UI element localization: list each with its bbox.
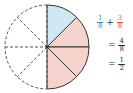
equals-sign: =	[108, 59, 116, 69]
denominator: 2	[118, 65, 124, 72]
dashed-diag-lower	[17, 47, 47, 77]
equation-line-3: = 1 2	[108, 57, 125, 72]
denominator: 8	[118, 46, 124, 53]
fraction-four-eighths: 4 8	[118, 38, 124, 53]
fraction-circle	[0, 0, 92, 93]
dashed-diag-upper	[17, 17, 47, 47]
equation-line-1: 1 8 + 3 8	[97, 15, 123, 30]
equals-sign: =	[108, 40, 116, 50]
denominator: 8	[97, 23, 103, 30]
denominator: 8	[117, 23, 123, 30]
fraction-one-eighth: 1 8	[97, 15, 103, 30]
fraction-three-eighths: 3 8	[117, 15, 123, 30]
plus-sign: +	[106, 17, 114, 27]
center-dot	[46, 46, 49, 49]
equation-line-2: = 4 8	[108, 38, 125, 53]
fraction-one-half: 1 2	[118, 57, 124, 72]
